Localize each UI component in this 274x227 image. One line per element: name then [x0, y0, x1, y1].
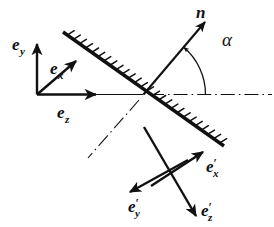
vector-e-z-label: ez — [57, 103, 70, 125]
mirror-hatch-tick — [110, 61, 117, 65]
mirror-hatch-tick — [122, 70, 129, 74]
mirror-surface-line — [63, 32, 224, 146]
mirror-hatch-tick — [134, 78, 141, 82]
vector-e-z-label-base: e — [57, 103, 65, 122]
vector-e-y-label-subscript: y — [18, 45, 25, 57]
mirror-hatch-tick — [208, 130, 215, 134]
vector-e-y-label: ey — [12, 35, 25, 57]
mirror-hatch-tick — [86, 44, 93, 48]
mirror-hatch-tick — [165, 100, 172, 104]
mirror-hatch-tick — [116, 65, 123, 69]
mirror-hatch-tick — [189, 117, 196, 121]
normal-vector: n — [144, 3, 206, 95]
vector-e-y-prime-label-subscript: y — [133, 207, 140, 219]
mirror-hatch-tick — [201, 126, 208, 130]
mirror-hatch-tick — [195, 121, 202, 125]
mirror-hatch-tick — [183, 113, 190, 117]
mirror-hatch-tick — [140, 83, 147, 87]
reflection-diagram: α n eyexeze′xe′ye′z — [0, 0, 274, 227]
optical-axis-reflected — [88, 100, 139, 158]
primed-triad — [130, 127, 203, 216]
unprimed-triad — [37, 44, 96, 95]
angle-alpha-arc — [184, 47, 206, 94]
vector-e-z-prime-label-subscript: z — [207, 211, 213, 223]
mirror-hatch-tick — [104, 57, 111, 61]
mirror-hatch-tick — [92, 48, 99, 52]
mirror-hatch-tick — [220, 139, 227, 143]
vector-e-z-label-subscript: z — [64, 113, 70, 125]
mirror-hatching — [67, 31, 226, 143]
vector-e-x-prime-label-subscript: x — [212, 167, 219, 179]
vector-e-x-label: ex — [50, 59, 64, 81]
unprimed-triad-labels: eyexez — [12, 35, 70, 125]
basis-vector-labels-layer: eyexeze′xe′ye′z — [12, 35, 219, 223]
vector-e-y-prime-label: e′y — [128, 196, 140, 219]
optical-axis — [88, 95, 272, 159]
vector-e-y-label-base: e — [12, 35, 20, 54]
mirror-hatch-tick — [98, 52, 105, 56]
angle-alpha-label: α — [222, 29, 233, 50]
mirror-hatch-tick — [67, 31, 74, 35]
vector-e-x-prime — [151, 152, 203, 186]
primed-triad-labels: e′xe′ye′z — [128, 156, 219, 223]
mirror-hatch-tick — [159, 95, 166, 99]
mirror-hatch-tick — [177, 108, 184, 112]
vector-e-z-prime-label: e′z — [201, 200, 213, 223]
mirror-hatch-tick — [128, 74, 135, 78]
normal-vector-label: n — [196, 3, 205, 22]
mirror-hatch-tick — [171, 104, 178, 108]
normal-vector-line — [144, 22, 206, 95]
vector-e-z-prime — [144, 127, 196, 216]
mirror-hatch-tick — [214, 134, 221, 138]
vector-e-x-label-subscript: x — [57, 69, 64, 81]
vector-e-x-prime-label: e′x — [206, 156, 219, 179]
mirror-hatch-tick — [79, 39, 86, 43]
figure-canvas: α n eyexeze′xe′ye′z — [0, 0, 274, 227]
mirror-hatch-tick — [73, 35, 80, 39]
vector-e-x-label-base: e — [50, 59, 58, 78]
